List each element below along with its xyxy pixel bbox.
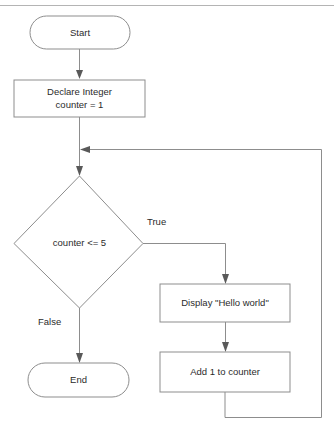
arrowhead-declare-to-decision: [76, 166, 83, 176]
arrowhead-false-to-end: [76, 353, 83, 363]
node-end-label: End: [70, 374, 87, 385]
arrowhead-loopback-merge: [80, 146, 90, 153]
node-declare-label-line2: counter = 1: [56, 99, 104, 110]
arrowhead-display-to-increment: [222, 342, 229, 352]
arrowhead-start-to-declare: [76, 70, 83, 79]
node-increment-label: Add 1 to counter: [190, 366, 260, 377]
edge-label-true: True: [147, 216, 166, 227]
node-decision-label: counter <= 5: [53, 237, 106, 248]
arrowhead-true-to-display: [222, 274, 229, 284]
node-start-label: Start: [70, 27, 90, 38]
node-declare-label-line1: Declare Integer: [47, 86, 112, 97]
flowchart-canvas: Start Declare Integer counter = 1 counte…: [0, 0, 334, 427]
edge-label-false: False: [38, 316, 61, 327]
node-display-label: Display "Hello world": [181, 297, 269, 308]
